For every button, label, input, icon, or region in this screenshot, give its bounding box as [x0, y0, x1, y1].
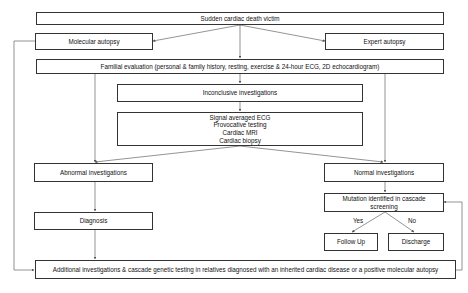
test-provocative-testing: Provocative testing [213, 121, 266, 129]
node-label: Follow Up [337, 238, 365, 246]
node-label: Inconclusive investigations [203, 89, 278, 97]
edge-label-yes: Yes [353, 217, 363, 224]
node-label: Mutation identified in cascade screening [339, 195, 429, 210]
node-inconclusive-investigations: Inconclusive investigations [117, 84, 363, 102]
test-cardiac-biopsy: Cardiac biopsy [219, 137, 261, 145]
node-label: Molecular autopsy [68, 38, 119, 46]
node-label: Diagnosis [80, 217, 108, 225]
node-further-tests: Signal averaged ECG Provocative testing … [117, 112, 363, 146]
test-cardiac-mri: Cardiac MRI [223, 129, 258, 137]
flowchart-canvas: Sudden cardiac death victim Molecular au… [0, 0, 468, 293]
node-sudden-cardiac-death-victim: Sudden cardiac death victim [36, 12, 444, 25]
node-follow-up: Follow Up [324, 233, 378, 251]
node-label: Familial evaluation (personal & family h… [101, 63, 380, 71]
node-abnormal-investigations: Abnormal investigations [34, 163, 153, 182]
node-diagnosis: Diagnosis [34, 212, 153, 230]
node-mutation-identified: Mutation identified in cascade screening [324, 193, 444, 212]
node-label: Normal investigations [354, 169, 414, 177]
node-familial-evaluation: Familial evaluation (personal & family h… [36, 59, 444, 74]
node-additional-investigations: Additional investigations & cascade gene… [35, 260, 456, 279]
node-label: Sudden cardiac death victim [200, 15, 279, 23]
node-normal-investigations: Normal investigations [324, 163, 444, 182]
node-label: Expert autopsy [363, 38, 405, 46]
node-label: Additional investigations & cascade gene… [53, 266, 438, 274]
node-molecular-autopsy: Molecular autopsy [35, 33, 153, 50]
node-label: Abnormal investigations [60, 169, 127, 177]
node-label: Discharge [402, 238, 430, 246]
edge-label-no: No [408, 217, 416, 224]
test-signal-averaged-ecg: Signal averaged ECG [210, 114, 271, 122]
node-discharge: Discharge [388, 233, 444, 251]
node-expert-autopsy: Expert autopsy [325, 33, 444, 50]
